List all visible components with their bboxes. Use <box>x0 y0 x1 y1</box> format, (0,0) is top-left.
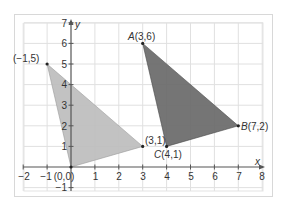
point-neg1-5 <box>46 62 49 65</box>
y-tick-label: 5 <box>61 59 67 70</box>
point-3-1 <box>141 145 144 148</box>
label-3-1: (3,1) <box>145 135 166 146</box>
y-tick-label: 7 <box>61 18 67 29</box>
origin-label: (0,0) <box>54 171 75 182</box>
y-tick-label: 1 <box>61 141 67 152</box>
y-tick-label: 2 <box>61 121 67 132</box>
x-tick-label: −1 <box>40 171 52 182</box>
y-tick-label: 6 <box>61 38 67 49</box>
point-origin <box>69 165 72 168</box>
y-axis-label: y <box>74 19 81 30</box>
y-tick-label: 4 <box>61 79 67 90</box>
label-C-coords: (4,1) <box>161 149 182 160</box>
x-tick-label: 1 <box>93 171 99 182</box>
label-A: A(3,6) <box>127 31 155 42</box>
x-tick-label: 7 <box>236 171 242 182</box>
x-tick-label: 6 <box>212 171 218 182</box>
label-neg1-5: (−1,5) <box>13 53 39 64</box>
point-A <box>141 42 144 45</box>
x-tick-label: −2 <box>18 171 30 182</box>
y-tick-label: −1 <box>56 182 68 193</box>
label-B: B(7,2) <box>241 121 268 132</box>
x-tick-label: 4 <box>164 171 170 182</box>
coordinate-plane: −2 −1 1 2 3 4 5 6 7 8 (0,0) −1 1 2 3 4 5… <box>0 0 283 200</box>
point-B <box>237 124 240 127</box>
x-tick-label: 8 <box>259 171 265 182</box>
x-tick-label: 3 <box>140 171 146 182</box>
label-B-coords: (7,2) <box>248 121 269 132</box>
x-axis-label: x <box>254 156 261 167</box>
y-tick-label: 3 <box>61 100 67 111</box>
label-A-coords: (3,6) <box>135 31 156 42</box>
x-tick-label: 5 <box>188 171 194 182</box>
x-tick-label: 2 <box>116 171 122 182</box>
label-C: C(4,1) <box>154 149 182 160</box>
